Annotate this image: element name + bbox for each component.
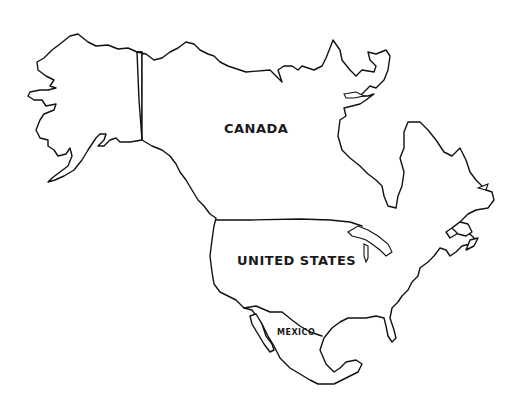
- lake-michigan: [364, 244, 368, 262]
- label-united-states: UNITED STATES: [237, 253, 356, 268]
- canada-usa-mainland-outline: [137, 40, 494, 384]
- label-canada: CANADA: [224, 121, 288, 136]
- alaska-outline: [28, 34, 142, 182]
- map-outline: [0, 0, 524, 408]
- label-mexico: MEXICO: [277, 328, 315, 337]
